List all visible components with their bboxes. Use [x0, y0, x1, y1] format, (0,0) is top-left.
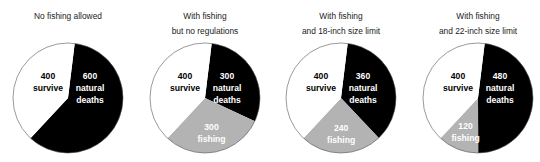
- pie-label-line: 400: [306, 70, 336, 82]
- pie-label-fishing: 240fishing: [327, 122, 355, 146]
- pie-label-line: 600: [76, 70, 105, 82]
- pie-label-survive: 400survive: [170, 70, 200, 94]
- pie-label-line: 400: [33, 70, 63, 82]
- pie-label-line: natural: [76, 82, 105, 94]
- pie-label-fishing: 300fishing: [197, 121, 225, 145]
- pie-label-line: survive: [306, 82, 336, 94]
- pie-label-line: 240: [327, 122, 355, 134]
- pie-label-natural-deaths: 480naturaldeaths: [486, 70, 515, 106]
- pie-label-line: natural: [486, 82, 515, 94]
- pie-1: [13, 43, 123, 153]
- pie-label-line: survive: [170, 82, 200, 94]
- pie-label-line: 300: [197, 121, 225, 133]
- pie-label-survive: 400survive: [306, 70, 336, 94]
- pie-label-line: survive: [33, 82, 63, 94]
- pie-label-line: fishing: [451, 132, 479, 144]
- pie-label-line: fishing: [197, 133, 225, 145]
- pie-label-line: 480: [486, 70, 515, 82]
- pie-label-line: 400: [170, 70, 200, 82]
- pie-label-natural-deaths: 600naturaldeaths: [76, 70, 105, 106]
- pie-label-line: deaths: [486, 94, 515, 106]
- pie-label-natural-deaths: 300naturaldeaths: [213, 70, 242, 106]
- pie-label-line: 300: [213, 70, 242, 82]
- pie-label-line: survive: [443, 82, 473, 94]
- pie-label-line: natural: [349, 82, 378, 94]
- pie-label-line: deaths: [349, 94, 378, 106]
- pie-label-line: deaths: [76, 94, 105, 106]
- pie-label-line: fishing: [327, 134, 355, 146]
- pie-label-natural-deaths: 360naturaldeaths: [349, 70, 378, 106]
- pie-label-line: 400: [443, 70, 473, 82]
- pie-label-survive: 400survive: [33, 70, 63, 94]
- pie-label-fishing: 120fishing: [451, 120, 479, 144]
- pie-label-line: natural: [213, 82, 242, 94]
- pie-label-line: 120: [451, 120, 479, 132]
- pie-label-survive: 400survive: [443, 70, 473, 94]
- pie-label-line: 360: [349, 70, 378, 82]
- pie-label-line: deaths: [213, 94, 242, 106]
